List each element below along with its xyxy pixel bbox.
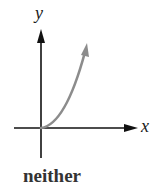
x-axis-label: x <box>141 117 149 135</box>
y-axis-arrow-icon <box>37 29 45 43</box>
y-axis-label: y <box>35 4 43 22</box>
x-axis <box>14 124 138 132</box>
graph-svg <box>0 0 155 191</box>
curve <box>41 43 89 128</box>
graph-figure: y x neither <box>0 0 155 191</box>
curve-arrow-icon <box>81 43 89 57</box>
x-axis-arrow-icon <box>124 124 138 132</box>
caption-label: neither <box>0 166 104 185</box>
y-axis <box>37 29 45 158</box>
